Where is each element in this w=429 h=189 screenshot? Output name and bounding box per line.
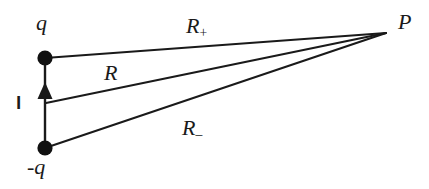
positive-charge-dot: [37, 50, 52, 65]
r-mid-label: R: [104, 62, 117, 84]
dipole-diagram: q -q l R+ R R– P: [0, 0, 429, 189]
r-plus-base: R: [186, 13, 199, 38]
r-plus-label: R+: [186, 15, 207, 40]
dipole-vector-arrowhead: [38, 82, 53, 99]
field-point-label: P: [398, 11, 411, 33]
diagram-canvas: [0, 0, 429, 189]
negative-charge-label: -q: [27, 156, 45, 178]
r-minus-label: R–: [182, 117, 202, 142]
r-minus-subscript: –: [195, 127, 202, 142]
line-r-plus: [45, 33, 386, 58]
line-r-minus: [45, 33, 386, 148]
dipole-vector-label: l: [16, 93, 21, 112]
line-r-mid: [46, 33, 386, 103]
r-plus-subscript: +: [199, 25, 207, 40]
positive-charge-label: q: [36, 12, 47, 34]
r-minus-base: R: [182, 115, 195, 140]
